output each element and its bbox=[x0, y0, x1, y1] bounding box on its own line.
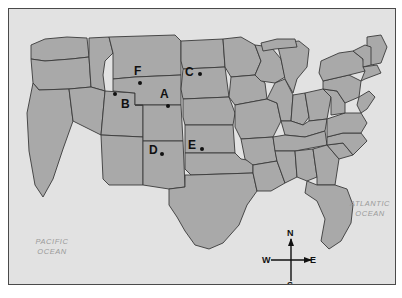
map-frame: PACIFIC OCEAN ATLANTIC OCEAN A B C D E F… bbox=[8, 8, 396, 285]
point-label-a[interactable]: A bbox=[160, 88, 169, 100]
point-label-b[interactable]: B bbox=[121, 98, 130, 110]
point-label-d[interactable]: D bbox=[149, 144, 158, 156]
state-washington bbox=[31, 37, 89, 61]
compass-label-south: S bbox=[287, 281, 293, 285]
point-marker-d[interactable] bbox=[160, 152, 164, 156]
state-arizona bbox=[101, 135, 143, 185]
state-massachusetts-connecticut bbox=[361, 65, 381, 81]
point-label-c[interactable]: C bbox=[185, 66, 194, 78]
point-label-f[interactable]: F bbox=[134, 65, 141, 77]
compass-label-north: N bbox=[287, 229, 294, 238]
point-marker-b[interactable] bbox=[113, 92, 117, 96]
compass-rose: N S W E bbox=[262, 229, 320, 285]
point-marker-a[interactable] bbox=[166, 104, 170, 108]
compass-label-east: E bbox=[310, 256, 316, 265]
state-ohio bbox=[305, 89, 331, 121]
state-minnesota bbox=[223, 37, 261, 77]
state-california bbox=[27, 83, 73, 197]
compass-label-west: W bbox=[262, 256, 271, 265]
state-montana bbox=[109, 35, 181, 79]
point-marker-f[interactable] bbox=[138, 81, 142, 85]
state-missouri bbox=[235, 99, 281, 139]
state-idaho bbox=[89, 37, 113, 91]
pacific-ocean-label: PACIFIC OCEAN bbox=[21, 237, 83, 256]
state-nebraska bbox=[183, 97, 235, 125]
point-marker-c[interactable] bbox=[198, 72, 202, 76]
point-label-e[interactable]: E bbox=[188, 139, 196, 151]
state-nevada bbox=[69, 87, 105, 135]
land-masses bbox=[27, 35, 387, 249]
state-oklahoma bbox=[185, 153, 253, 175]
atlantic-ocean-label: ATLANTIC OCEAN bbox=[339, 199, 396, 218]
state-virginia bbox=[327, 113, 367, 137]
state-oregon bbox=[31, 57, 91, 90]
point-marker-e[interactable] bbox=[200, 147, 204, 151]
